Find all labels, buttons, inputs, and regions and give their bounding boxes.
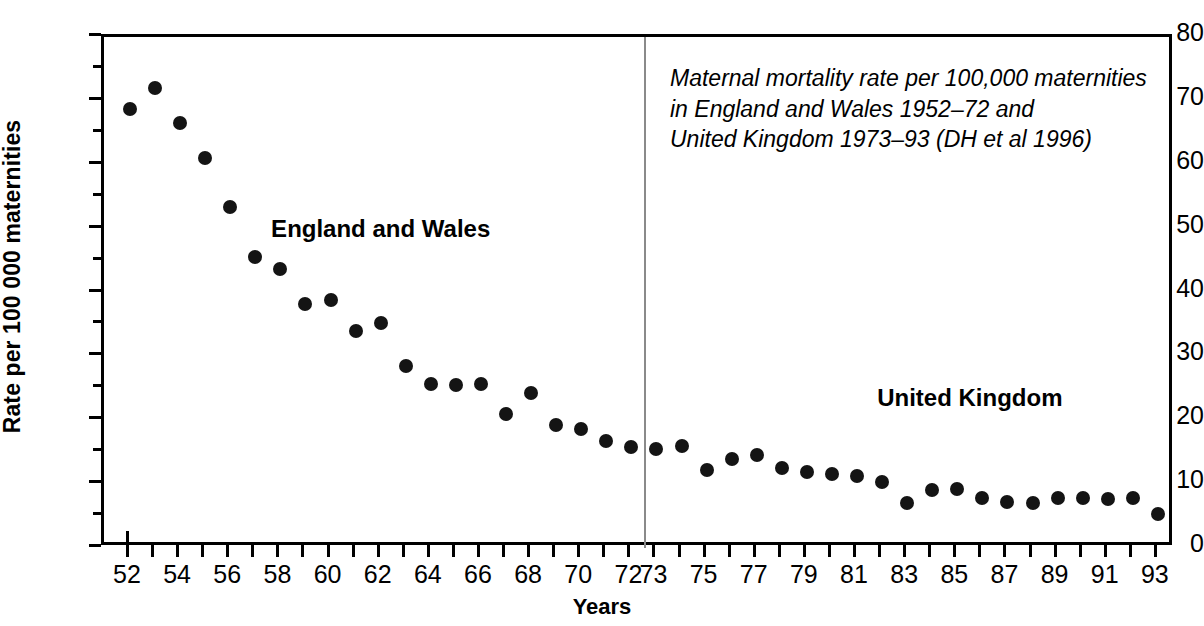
chart-caption: Maternal mortality rate per 100,000 mate… [670, 63, 1147, 155]
data-point [900, 496, 914, 510]
y-tick-minor [93, 320, 101, 323]
x-tick [151, 545, 154, 557]
data-point [549, 418, 563, 432]
x-tick [778, 545, 781, 557]
data-point [324, 293, 338, 307]
x-tick [853, 545, 856, 557]
x-tick [1003, 545, 1006, 557]
series-label-united-kingdom: United Kingdom [877, 384, 1062, 412]
chart-figure: Rate per 100 000 maternities 01020304050… [0, 0, 1204, 626]
data-point [499, 407, 513, 421]
data-point [950, 482, 964, 496]
data-point [700, 463, 714, 477]
x-tick [652, 545, 655, 557]
data-point [574, 422, 588, 436]
y-tick-minor [93, 257, 101, 260]
x-tick [1079, 545, 1082, 557]
data-point [1076, 491, 1090, 505]
data-point [198, 151, 212, 165]
y-tick-major [89, 289, 101, 292]
data-point [875, 475, 889, 489]
x-tick [201, 545, 204, 557]
x-tick-label: 93 [1125, 562, 1185, 587]
data-point [474, 377, 488, 391]
series-label-england-and-wales: England and Wales [271, 215, 490, 243]
data-point [449, 378, 463, 392]
data-point [248, 250, 262, 264]
x-tick [251, 545, 254, 557]
data-point [1126, 491, 1140, 505]
data-point [825, 467, 839, 481]
series-divider-line [644, 37, 646, 548]
x-tick [126, 531, 129, 557]
y-axis-label: Rate per 100 000 maternities [0, 0, 26, 557]
y-tick-major [89, 33, 101, 36]
x-tick [828, 545, 831, 557]
x-tick [301, 545, 304, 557]
data-point [273, 262, 287, 276]
data-point [1151, 507, 1165, 521]
plot-area: England and Wales United Kingdom Materna… [101, 34, 1172, 545]
x-tick [226, 545, 229, 557]
data-point [750, 448, 764, 462]
data-point [850, 469, 864, 483]
x-tick [678, 545, 681, 557]
x-tick [803, 545, 806, 557]
data-point [775, 461, 789, 475]
x-tick [502, 545, 505, 557]
data-point [374, 316, 388, 330]
data-point [173, 116, 187, 130]
data-point [675, 439, 689, 453]
y-tick-major [89, 161, 101, 164]
data-point [1051, 491, 1065, 505]
data-point [1026, 496, 1040, 510]
data-point [148, 81, 162, 95]
y-tick-major [89, 225, 101, 228]
y-tick-minor [93, 512, 101, 515]
x-tick [327, 545, 330, 557]
x-tick [377, 545, 380, 557]
x-tick [452, 545, 455, 557]
y-tick-minor [93, 193, 101, 196]
x-tick [703, 545, 706, 557]
x-tick [527, 545, 530, 557]
x-tick [878, 545, 881, 557]
y-tick-minor [93, 129, 101, 132]
x-tick [176, 545, 179, 557]
data-point [725, 452, 739, 466]
x-tick [1054, 545, 1057, 557]
x-tick [928, 545, 931, 557]
x-tick [602, 545, 605, 557]
data-point [349, 324, 363, 338]
data-point [1101, 492, 1115, 506]
x-tick [577, 545, 580, 557]
data-point [624, 440, 638, 454]
x-tick [728, 545, 731, 557]
x-tick [1129, 545, 1132, 557]
y-tick-major [89, 416, 101, 419]
x-tick [427, 545, 430, 557]
x-tick [352, 545, 355, 557]
x-tick [903, 545, 906, 557]
data-point [649, 442, 663, 456]
x-axis-label: Years [0, 594, 1204, 620]
data-point [524, 386, 538, 400]
x-tick [276, 545, 279, 557]
data-point [975, 491, 989, 505]
y-tick-minor [93, 384, 101, 387]
x-tick [1029, 545, 1032, 557]
y-tick-minor [93, 448, 101, 451]
y-tick-major [89, 352, 101, 355]
data-point [1000, 495, 1014, 509]
data-point [399, 359, 413, 373]
data-point [298, 297, 312, 311]
y-tick-major [89, 97, 101, 100]
data-point [800, 465, 814, 479]
x-tick [477, 545, 480, 557]
y-tick-minor [93, 65, 101, 68]
data-point [599, 434, 613, 448]
x-tick [753, 545, 756, 557]
y-tick-major [89, 480, 101, 483]
data-point [424, 377, 438, 391]
x-tick [552, 545, 555, 557]
